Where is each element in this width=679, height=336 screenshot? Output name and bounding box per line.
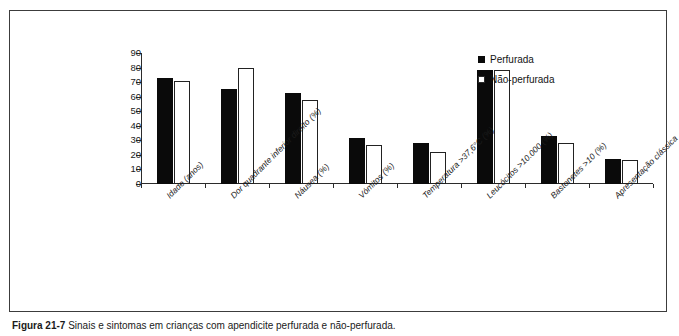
y-axis-tick-label: 90 [113,48,141,57]
legend-item[interactable]: Não-perfurada [478,72,618,87]
x-axis-tick [525,184,526,188]
y-axis-tick-label: 30 [113,135,141,144]
figure-caption-label: Figura 21-7 [12,320,65,331]
y-axis-tick-label-wrap: 70 [102,77,141,86]
x-axis-tick [141,184,142,188]
bar-perfurada[interactable] [221,89,237,184]
figure-root: 0102030405060708090 PerfuradaNão-perfura… [0,0,679,336]
bar-perfurada[interactable] [605,159,621,184]
x-axis-tick [269,184,270,188]
legend-item[interactable]: Perfurada [478,52,618,67]
y-axis-tick-label-wrap: 50 [102,106,141,115]
x-axis-tick [461,184,462,188]
chart-plot-area: 0102030405060708090 PerfuradaNão-perfura… [10,11,668,313]
x-axis-tick [653,184,654,188]
figure-caption-body: Sinais e sintomas em crianças com apendi… [68,320,395,331]
y-axis-tick-label: 60 [113,92,141,101]
y-axis-tick-label-wrap: 10 [102,164,141,173]
y-axis-tick-label: 80 [113,63,141,72]
y-axis-tick-label: 70 [113,77,141,86]
y-axis-tick-label-wrap: 80 [102,63,141,72]
bar-perfurada[interactable] [413,143,429,184]
figure-caption-text: Figura 21-7 Sinais e sintomas em criança… [12,320,662,332]
legend-item-label: Perfurada [490,54,534,65]
y-axis-tick-label: 20 [113,150,141,159]
figure-frame-box: 0102030405060708090 PerfuradaNão-perfura… [9,10,667,312]
bar-perfurada[interactable] [157,78,173,184]
hollow-square-icon [478,76,485,83]
bar-nao-perfurada[interactable] [174,81,190,184]
y-axis-tick-label: 10 [113,164,141,173]
x-axis-tick [397,184,398,188]
y-axis-tick-label-wrap: 60 [102,92,141,101]
x-axis-tick [589,184,590,188]
filled-square-icon [478,56,485,63]
y-axis-tick-label-wrap: 40 [102,121,141,130]
y-axis-tick-label-wrap: 90 [102,48,141,57]
y-axis-tick-label-wrap: 20 [102,150,141,159]
y-axis-tick-label-wrap: 30 [102,135,141,144]
y-axis-tick-label-wrap: 0 [102,179,141,188]
bar-perfurada[interactable] [349,138,365,184]
y-axis-tick-label: 0 [113,179,141,188]
y-axis-tick-label: 40 [113,121,141,130]
legend-item-label: Não-perfurada [490,74,554,85]
bar-nao-perfurada[interactable] [238,68,254,184]
x-axis-tick [205,184,206,188]
figure-caption: Figura 21-7 Sinais e sintomas em criança… [12,320,662,336]
chart-legend: PerfuradaNão-perfurada [478,52,618,92]
x-axis-tick [333,184,334,188]
y-axis-tick-label: 50 [113,106,141,115]
